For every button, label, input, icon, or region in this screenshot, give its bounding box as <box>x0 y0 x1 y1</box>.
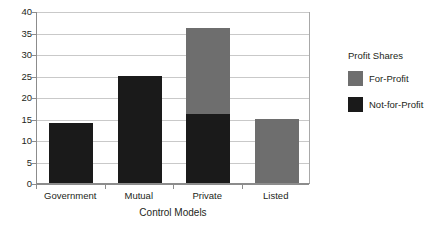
bar-column <box>186 11 230 183</box>
bar-column <box>118 11 162 183</box>
y-axis-tick-label: 0 <box>2 179 32 189</box>
legend-swatch-icon <box>348 71 363 86</box>
y-axis-tick-label: 15 <box>2 115 32 125</box>
x-axis-tick-label: Mutual <box>105 190 174 201</box>
x-axis-tick-label: Listed <box>242 190 311 201</box>
y-axis-tick-label: 30 <box>2 50 32 60</box>
bar-segment-not-for-profit <box>49 123 93 183</box>
bar-segment-for-profit <box>255 119 299 184</box>
y-axis: 0510152025303540 <box>0 12 32 184</box>
y-axis-tick-label: 20 <box>2 93 32 103</box>
x-axis-tick-mark <box>36 184 37 189</box>
bar-segment-for-profit <box>186 28 230 114</box>
x-axis-title: Control Models <box>36 207 310 218</box>
y-axis-tick-label: 25 <box>2 72 32 82</box>
legend-item-label: Not-for-Profit <box>369 99 423 110</box>
x-axis-tick-mark <box>105 184 106 189</box>
legend-item-label: For-Profit <box>369 73 409 84</box>
legend-item: Not-for-Profit <box>348 97 428 112</box>
x-axis-tick-label: Government <box>36 190 105 201</box>
bar-column <box>49 11 93 183</box>
legend: Profit Shares For-ProfitNot-for-Profit <box>348 50 428 123</box>
y-axis-tick-label: 10 <box>2 136 32 146</box>
x-axis-tick-mark <box>242 184 243 189</box>
bar-column <box>255 11 299 183</box>
bar-segment-not-for-profit <box>186 114 230 183</box>
y-axis-tick-label: 5 <box>2 158 32 168</box>
y-axis-tick-label: 40 <box>2 7 32 17</box>
bar-chart: 0510152025303540 GovernmentMutualPrivate… <box>0 0 428 227</box>
plot-area <box>36 12 310 184</box>
x-axis-tick-mark <box>173 184 174 189</box>
legend-item: For-Profit <box>348 71 428 86</box>
legend-entries: For-ProfitNot-for-Profit <box>348 71 428 112</box>
legend-title: Profit Shares <box>348 50 428 61</box>
x-axis-tick-label: Private <box>173 190 242 201</box>
y-axis-tick-label: 35 <box>2 29 32 39</box>
bar-segment-not-for-profit <box>118 76 162 184</box>
legend-swatch-icon <box>348 97 363 112</box>
